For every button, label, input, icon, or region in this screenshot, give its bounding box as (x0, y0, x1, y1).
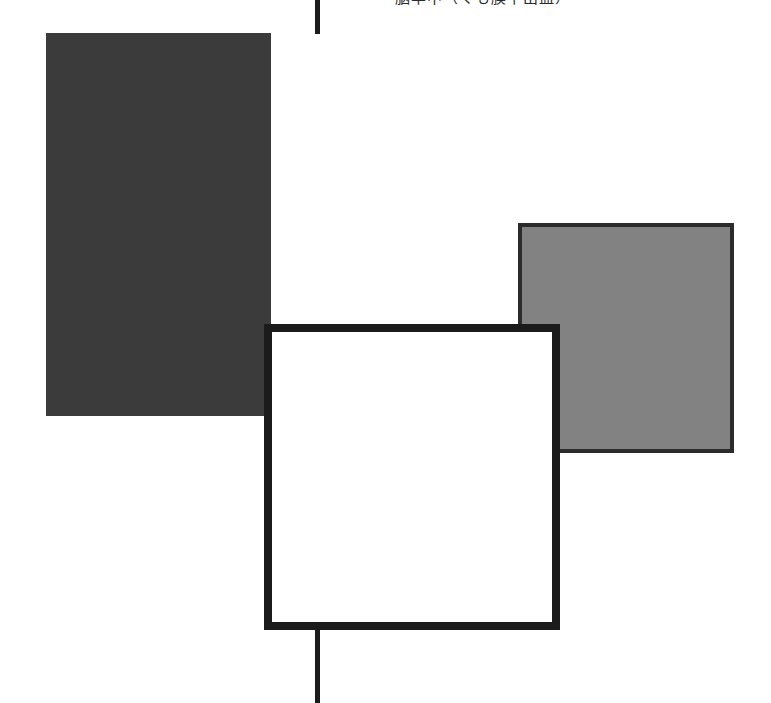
top-connector-line (315, 0, 320, 34)
white-outlined-square (264, 324, 560, 630)
figure-caption-text: 脳卒中（くも膜下出血） (395, 0, 571, 6)
dark-filled-square (46, 33, 271, 416)
bottom-connector-line (315, 630, 320, 703)
figure-canvas: 脳卒中（くも膜下出血） (0, 0, 771, 703)
